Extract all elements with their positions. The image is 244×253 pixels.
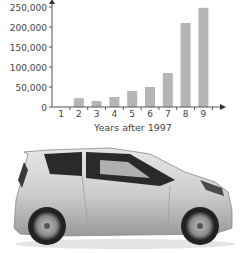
x-tick-label: 5 xyxy=(129,109,135,119)
bar xyxy=(92,101,102,107)
bar xyxy=(181,23,191,107)
y-tick-label: 100,000 xyxy=(10,63,47,73)
y-tick-label: 50,000 xyxy=(16,83,48,93)
x-axis-arrow-icon xyxy=(220,104,226,110)
car-photo xyxy=(0,140,244,253)
bar xyxy=(198,8,208,107)
x-axis-ticks: 123456789 xyxy=(58,107,212,119)
y-tick-label: 200,000 xyxy=(10,23,47,33)
bars xyxy=(56,8,208,107)
x-tick-label: 7 xyxy=(165,109,171,119)
bar xyxy=(163,73,173,107)
x-tick-label: 9 xyxy=(201,109,207,119)
y-tick-label: 250,000 xyxy=(10,3,47,13)
bar xyxy=(127,91,137,107)
bar xyxy=(74,98,84,107)
bar xyxy=(109,97,119,107)
y-tick-label: 0 xyxy=(41,103,47,113)
bar xyxy=(145,87,155,107)
y-tick-label: 150,000 xyxy=(10,43,47,53)
x-tick-label: 3 xyxy=(94,109,100,119)
x-axis-label: Years after 1997 xyxy=(93,122,172,133)
x-tick-label: 4 xyxy=(112,109,118,119)
bar-chart: 050,000100,000150,000200,000250,000 1234… xyxy=(0,0,244,140)
x-tick-label: 2 xyxy=(76,109,82,119)
x-tick-label: 8 xyxy=(183,109,189,119)
x-tick-label: 6 xyxy=(147,109,153,119)
x-tick-label: 1 xyxy=(58,109,64,119)
y-axis-arrow-icon xyxy=(49,0,55,4)
y-axis-ticks: 050,000100,000150,000200,000250,000 xyxy=(10,3,52,113)
